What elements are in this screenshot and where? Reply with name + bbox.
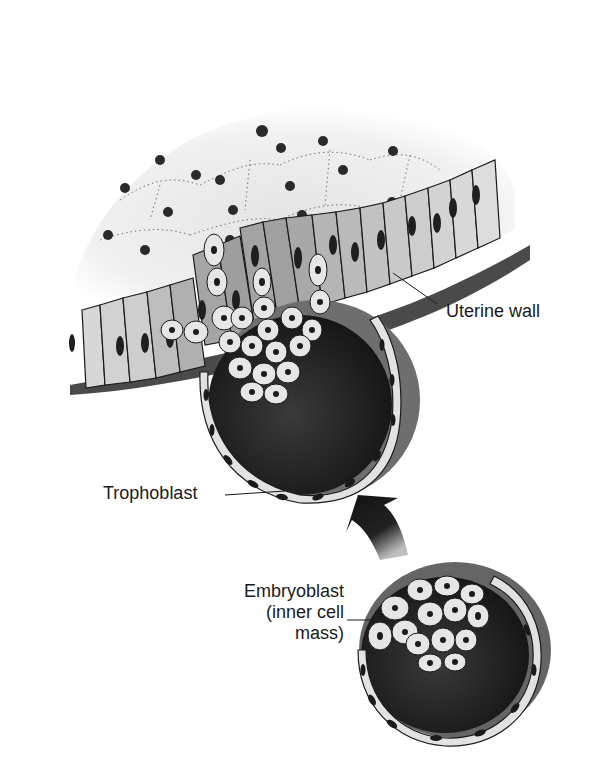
uterine-wall-label: Uterine wall [446,301,540,322]
embryoblast-label-line3: mass) [226,623,344,644]
embryoblast-label-line1: Embryoblast [226,581,344,602]
curved-arrow-icon [346,495,408,560]
embryoblast-label: Embryoblast (inner cell mass) [226,581,344,644]
embryoblast-label-line2: (inner cell [226,602,344,623]
uterine-wall-leader-line [393,273,437,304]
free-blastocyst [358,562,551,746]
implantation-diagram: Uterine wall Trophoblast Embryoblast (in… [0,0,595,757]
trophoblast-label: Trophoblast [103,483,197,504]
